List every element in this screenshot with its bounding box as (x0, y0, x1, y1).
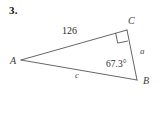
triangle-drawing (0, 0, 160, 117)
figure-container: 3. A B C 126 c a 67.3° (0, 0, 160, 117)
angle-measure-label-B: 67.3° (106, 60, 126, 70)
side-length-label-AC: 126 (62, 26, 77, 36)
vertex-label-A: A (10, 56, 16, 66)
vertex-label-B: B (143, 76, 149, 86)
segment-CB (127, 30, 137, 80)
vertex-label-C: C (128, 16, 135, 26)
right-angle-square-marker-C (116, 33, 128, 43)
side-variable-label-c: c (75, 71, 79, 80)
side-variable-label-a: a (140, 47, 145, 56)
